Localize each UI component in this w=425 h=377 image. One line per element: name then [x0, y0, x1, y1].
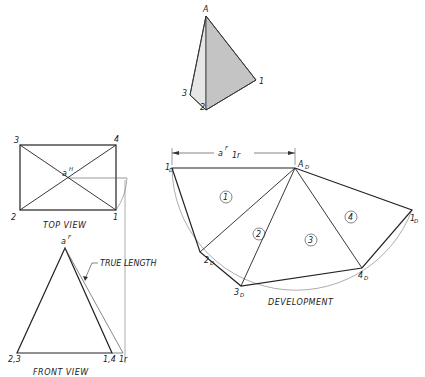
label-dev-p1b-sub: D	[414, 218, 418, 224]
label-dev-p3: 3	[234, 288, 239, 297]
label-top-apex-sup: H	[69, 166, 73, 172]
label-dev-apex: A	[297, 160, 303, 169]
label-front-left: 2,3	[8, 355, 21, 364]
label-dev-apex-sub: D	[305, 164, 309, 170]
dimension-label-main: a	[218, 149, 223, 158]
development: a F 1r 1 2 3 4 1 D A D 1 D 4 D 3 D 2 D D…	[165, 145, 418, 307]
label-dev-p4: 4	[358, 271, 363, 280]
label-top-v2: 2	[11, 213, 16, 222]
pyramid-drawing: A 1 2 3 3 4 2 1 a H TOP VIEW TRUE LENGTH…	[0, 0, 425, 377]
pictorial-pyramid: A 1 2 3	[182, 5, 264, 112]
leader-arrowhead-icon	[83, 276, 88, 281]
development-arc	[172, 168, 412, 290]
true-length-leader	[85, 263, 98, 279]
fold-line-3	[241, 168, 295, 286]
label-pictorial-v3: 3	[182, 89, 187, 98]
face-number-3: 3	[308, 236, 313, 245]
dimension-arrow-left-icon	[172, 151, 179, 155]
label-pictorial-apex: A	[202, 5, 208, 14]
label-top-v1: 1	[113, 213, 118, 222]
pyramid-right-face	[206, 16, 256, 110]
label-pictorial-v2: 2	[200, 103, 205, 112]
front-view-caption: FRONT VIEW	[33, 368, 89, 377]
label-pictorial-v1: 1	[259, 77, 264, 86]
fold-line-2	[200, 168, 295, 252]
face-number-4: 4	[348, 213, 353, 222]
front-view: TRUE LENGTH a F 2,3 1,4 1r FRONT VIEW	[8, 234, 157, 377]
label-dev-p3-sub: D	[240, 292, 244, 298]
face-number-2: 2	[256, 230, 261, 239]
label-front-right: 1,4	[103, 355, 116, 364]
development-caption: DEVELOPMENT	[268, 298, 334, 307]
true-length-annotation: TRUE LENGTH	[100, 259, 157, 268]
label-dev-p2-sub: D	[210, 260, 214, 266]
label-front-apex-sup: F	[68, 234, 72, 240]
label-dev-p4-sub: D	[364, 275, 368, 281]
front-view-triangle	[17, 248, 112, 353]
label-dev-p1a-sub: D	[169, 167, 173, 173]
top-view-caption: TOP VIEW	[43, 221, 87, 230]
label-front-apex: a	[61, 237, 66, 246]
label-top-v4: 4	[114, 135, 119, 144]
face-number-1: 1	[223, 193, 228, 202]
development-outline	[172, 168, 412, 286]
revolution-arc	[116, 178, 127, 210]
label-front-revolved: 1r	[119, 355, 128, 364]
label-top-apex: a	[62, 169, 67, 178]
dimension-arrow-right-icon	[288, 151, 295, 155]
label-dev-p2: 2	[204, 256, 209, 265]
dimension-label-sub: 1r	[232, 151, 241, 160]
label-top-v3: 3	[14, 136, 19, 145]
top-view: 3 4 2 1 a H TOP VIEW	[11, 135, 127, 230]
